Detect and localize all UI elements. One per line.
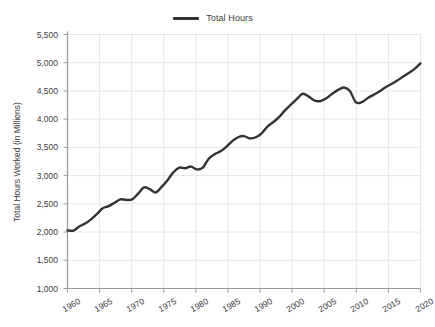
- vertical-gridlines: [100, 35, 421, 289]
- axis-lines: [68, 32, 421, 289]
- horizontal-gridlines: [68, 35, 421, 289]
- axis-tick-marks: [64, 35, 421, 293]
